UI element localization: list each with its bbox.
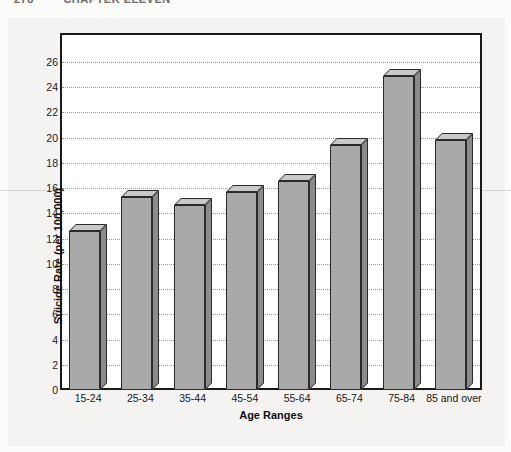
bar <box>69 224 100 390</box>
bar-side-face <box>361 138 368 390</box>
x-tick-label: 45-54 <box>231 392 258 404</box>
bar-chart-figure: 02468101214161820222426 Suicide Rate (pe… <box>0 0 511 452</box>
bar-front-face <box>121 197 152 390</box>
bar <box>121 190 152 390</box>
x-tick-label: 75-84 <box>388 392 415 404</box>
x-axis-title: Age Ranges <box>60 409 482 421</box>
bar <box>226 185 257 390</box>
bar-front-face <box>174 205 205 390</box>
bar-side-face <box>414 69 421 390</box>
plot-area <box>62 35 480 390</box>
x-tick-label: 85 and over <box>426 392 481 404</box>
bar-side-face <box>100 224 107 390</box>
bar-front-face <box>69 231 100 390</box>
x-tick-label: 65-74 <box>336 392 363 404</box>
x-tick-label: 35-44 <box>179 392 206 404</box>
x-axis-ticks: 15-2425-3435-4445-5455-6465-7475-8485 an… <box>62 392 480 408</box>
x-tick-label: 55-64 <box>284 392 311 404</box>
bar-side-face <box>205 198 212 390</box>
x-tick-label: 15-24 <box>75 392 102 404</box>
y-axis-title: Suicide Rate (per 100,000) <box>52 136 64 376</box>
bar-side-face <box>466 133 473 390</box>
bar <box>435 133 466 390</box>
bar-front-face <box>278 181 309 390</box>
bar <box>278 174 309 390</box>
bar-front-face <box>435 140 466 390</box>
bar-front-face <box>226 192 257 390</box>
y-tick-label: 0 <box>18 384 58 396</box>
y-axis-title-holder: Suicide Rate (per 100,000) <box>30 60 50 320</box>
bar-front-face <box>330 145 361 390</box>
bar-side-face <box>152 190 159 390</box>
bar <box>383 69 414 390</box>
bar <box>330 138 361 390</box>
bar <box>174 198 205 390</box>
bar-side-face <box>309 174 316 390</box>
x-tick-label: 25-34 <box>127 392 154 404</box>
bar-side-face <box>257 185 264 390</box>
bar-front-face <box>383 76 414 390</box>
gridline <box>62 62 480 63</box>
